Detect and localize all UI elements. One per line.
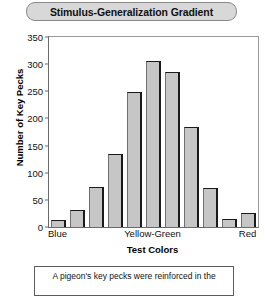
bar <box>108 154 122 227</box>
bar <box>203 188 217 227</box>
y-axis-label: Number of Key Pecks <box>14 43 25 193</box>
chart-title-box: Stimulus-Generalization Gradient <box>26 2 237 21</box>
y-axis-tick: 250 <box>27 86 49 97</box>
x-axis-label: Test Colors <box>48 244 257 255</box>
caption-text: A pigeon's key pecks were reinforced in … <box>35 267 233 282</box>
caption-box: A pigeon's key pecks were reinforced in … <box>34 266 234 296</box>
bar <box>89 187 103 227</box>
bar <box>127 92 141 227</box>
bar <box>184 127 198 227</box>
y-axis-tick-label: 150 <box>27 140 43 151</box>
x-axis-tick-label: Red <box>239 228 256 239</box>
y-axis-tick-label: 300 <box>27 59 43 70</box>
bar-series <box>49 37 258 227</box>
x-axis-tick-label: Blue <box>48 228 67 239</box>
x-axis-tick-label: Yellow-Green <box>124 228 181 239</box>
chart-figure: Number of Key Pecks 05010015020025030035… <box>0 24 265 256</box>
plot-area: 050100150200250300350 <box>48 36 259 228</box>
bar <box>70 210 84 227</box>
bar <box>165 72 179 227</box>
y-axis-tick-label: 50 <box>32 194 43 205</box>
bar <box>146 61 160 227</box>
page-title: Stimulus-Generalization Gradient <box>50 6 213 18</box>
y-axis-tick-label: 100 <box>27 167 43 178</box>
y-axis-tick-label: 0 <box>38 222 43 233</box>
bar <box>222 219 236 227</box>
y-axis-tick-label: 200 <box>27 113 43 124</box>
bar <box>241 213 255 227</box>
y-axis-tick: 350 <box>27 32 49 43</box>
y-axis-tick-label: 250 <box>27 86 43 97</box>
y-axis-tick-label: 350 <box>27 32 43 43</box>
y-axis-tick: 100 <box>27 167 49 178</box>
y-axis-tick: 200 <box>27 113 49 124</box>
bar <box>51 220 65 227</box>
x-axis-tick-labels: BlueYellow-GreenRed <box>48 228 257 242</box>
y-axis-tick: 300 <box>27 59 49 70</box>
y-axis-tick: 150 <box>27 140 49 151</box>
y-axis-tick: 50 <box>32 194 49 205</box>
